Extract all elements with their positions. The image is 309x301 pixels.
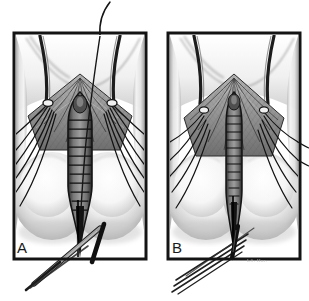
panel-a-artwork [13,35,147,258]
panel-a-group [13,2,147,290]
figure-root: A B LS. Hur. [0,0,309,301]
panel-b-label: B [172,240,183,255]
artist-credit: LS. Hur. [247,258,267,263]
surgical-illustration-canvas [0,0,309,301]
panel-a-label: A [17,240,28,255]
panel-b-group [167,33,309,294]
panel-b-artwork [167,35,301,258]
